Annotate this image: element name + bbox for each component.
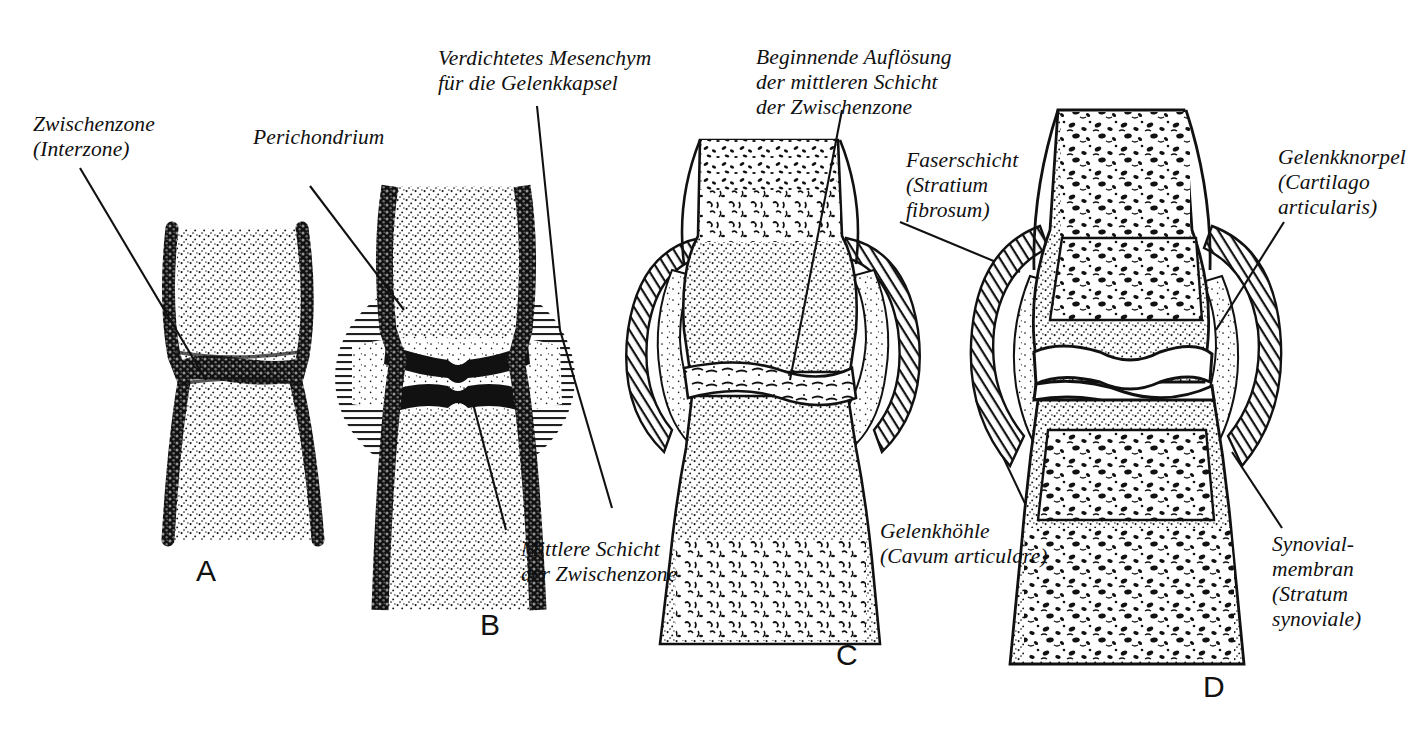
panel-letter-a: A	[196, 556, 216, 586]
panel-c-lower-ossify-front	[676, 540, 866, 644]
panel-a-upper-cartilage	[176, 228, 305, 360]
panel-c-upper-ossification	[702, 140, 836, 198]
panel-b-upper-cartilage	[390, 186, 525, 352]
label-synovialmembran: Synovial-membran(Stratumsynoviale)	[1272, 532, 1361, 632]
label-mittlere-schicht: Mittlere Schichtder Zwischenzone	[521, 537, 677, 587]
panel-d-upper-epiphysis-plate	[1050, 238, 1202, 320]
label-perichondrium: Perichondrium	[253, 125, 384, 150]
panel-a-lower-cartilage	[172, 382, 316, 540]
panel-d-lower-epiphysis-plate	[1038, 430, 1214, 520]
panel-letter-d: D	[1203, 672, 1225, 702]
label-gelenkknorpel: Gelenkknorpel(Cartilagoarticularis)	[1278, 145, 1406, 220]
panel-letter-b: B	[480, 610, 500, 640]
label-faserschicht: Faserschicht(Stratiumfibrosum)	[906, 148, 1018, 223]
anatomical-illustration	[0, 0, 1415, 730]
label-gelenkhoehle: Gelenkhöhle(Cavum articulare)	[880, 519, 1048, 569]
figure-canvas: Zwischenzone(Interzone) Perichondrium Ve…	[0, 0, 1415, 730]
label-beginnende-aufloesung: Beginnende Auflösungder mittleren Schich…	[756, 45, 952, 120]
panel-letter-c: C	[836, 640, 858, 670]
label-verdichtetes-mesenchym: Verdichtetes Mesenchymfür die Gelenkkaps…	[438, 46, 651, 96]
label-zwischenzone: Zwischenzone(Interzone)	[33, 112, 155, 162]
panel-d-lower-trabeculae	[1024, 528, 1234, 664]
panel-b-lower-cartilage	[376, 396, 540, 610]
panel-d-upper-trabeculae	[1060, 112, 1190, 242]
